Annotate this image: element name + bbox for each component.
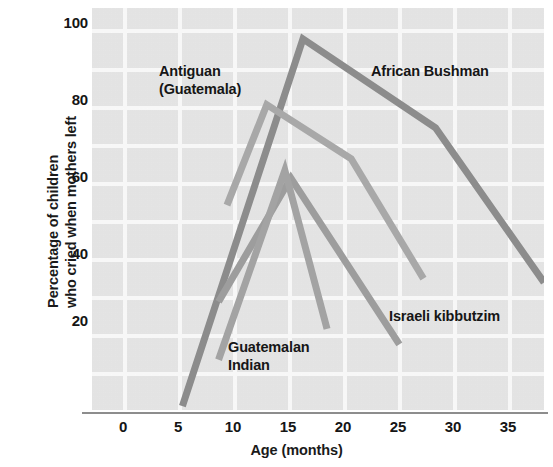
annotation-guatemalan-indian: Guatemalan Indian <box>228 338 310 374</box>
annotation-african-bushman: African Bushman <box>371 62 489 80</box>
y-tick-40: 40 <box>46 246 88 262</box>
x-tick-0: 0 <box>103 418 143 435</box>
x-axis-title: Age (months) <box>0 442 553 458</box>
annotation-antiguan-line1: Antiguan <box>159 62 241 80</box>
x-axis-line <box>82 412 548 414</box>
x-tick-35: 35 <box>488 418 528 435</box>
x-axis-title-text: Age (months) <box>250 442 342 458</box>
annotation-antiguan: Antiguan (Guatemala) <box>159 62 241 98</box>
x-tick-10: 10 <box>213 418 253 435</box>
y-axis-tick-labels: 100 80 60 40 20 <box>18 0 88 420</box>
x-tick-20: 20 <box>323 418 363 435</box>
y-tick-20: 20 <box>46 313 88 329</box>
annotation-israeli-kibbutzim: Israeli kibbutzim <box>389 307 500 325</box>
y-tick-60: 60 <box>46 169 88 185</box>
x-tick-5: 5 <box>158 418 198 435</box>
annotation-israeli-kibbutzim-line1: Israeli kibbutzim <box>389 307 500 325</box>
annotation-antiguan-line2: (Guatemala) <box>159 80 241 98</box>
x-tick-30: 30 <box>433 418 473 435</box>
x-axis-tick-labels: 0 5 10 15 20 25 30 35 <box>0 418 553 440</box>
x-tick-25: 25 <box>378 418 418 435</box>
chart-figure: Percentage of children who cried when mo… <box>0 0 553 467</box>
x-tick-15: 15 <box>268 418 308 435</box>
y-tick-80: 80 <box>46 92 88 108</box>
y-tick-100: 100 <box>46 15 88 31</box>
annotation-guatemalan-indian-line1: Guatemalan <box>228 338 310 356</box>
series-line-guatemalan-indian <box>219 170 327 359</box>
annotation-african-bushman-line1: African Bushman <box>371 62 489 80</box>
annotation-guatemalan-indian-line2: Indian <box>228 356 310 374</box>
